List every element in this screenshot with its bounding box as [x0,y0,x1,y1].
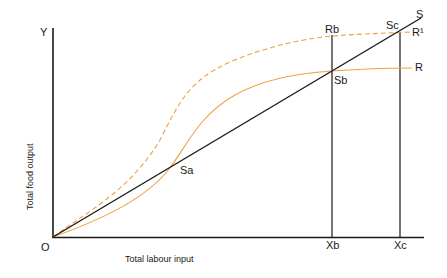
y-axis-end-label: Y [40,26,48,38]
curve-r1 [53,32,412,237]
x-axis-label: Total labour input [125,254,194,264]
origin-label: O [41,241,50,253]
rb-label: Rb [325,23,339,35]
sc-label: Sc [386,19,399,31]
sa-label: Sa [180,164,194,176]
xc-label: Xc [394,239,407,251]
line-s [53,18,421,237]
r1-curve-label: R¹ [412,26,424,38]
sb-label: Sb [334,74,347,86]
y-axis-label: Total food output [25,143,35,210]
xb-label: Xb [326,239,339,251]
r-curve-label: R [415,61,423,73]
diagram-canvas: Y O Total labour input Total food output… [0,0,447,278]
s-line-label: S [416,8,423,20]
curve-r [53,68,412,237]
